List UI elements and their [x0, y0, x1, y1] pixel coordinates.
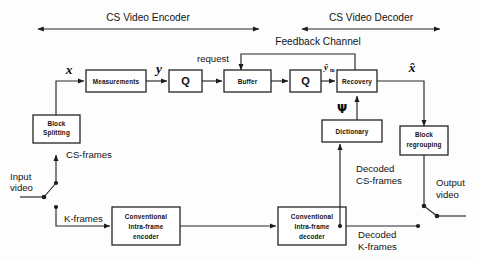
input-video-switch: Input video: [10, 171, 58, 209]
output-video-label-2: video: [436, 189, 459, 200]
signal-y-hat-subscript: m: [330, 67, 335, 73]
y-path: y: [146, 61, 167, 81]
decoded-k-label-1: Decoded: [358, 229, 396, 240]
block-recovery: Recovery: [337, 70, 377, 92]
diagram-canvas: CS Video Encoder CS Video Decoder Feedba…: [0, 0, 478, 260]
x-wire: [56, 81, 84, 115]
psi-label: Ψ: [337, 102, 347, 116]
x-hat-wire: [377, 81, 424, 126]
feedback-channel: Feedback Channel request: [197, 36, 361, 70]
block-intra-frame-encoder: Conventional Intra-frame encoder: [112, 207, 180, 245]
measurements-label: Measurements: [93, 78, 140, 85]
cs-frames-branch: CS-frames: [54, 149, 112, 185]
intra-decoder-label-3: decoder: [299, 233, 325, 240]
block-measurements: Measurements: [86, 70, 146, 92]
decoded-k-label-2: K-frames: [358, 241, 397, 252]
block-dictionary: Dictionary: [322, 120, 382, 142]
decoded-cs-label-1: Decoded: [356, 163, 394, 174]
decoded-k-frames-path: Decoded K-frames: [346, 224, 420, 252]
request-label: request: [197, 53, 229, 64]
cs-frames-label: CS-frames: [66, 149, 112, 160]
feedback-channel-label: Feedback Channel: [275, 36, 361, 47]
block-regrouping: Block regrouping: [400, 126, 448, 155]
block-quantizer-encode: Q: [169, 70, 202, 92]
decoded-cs-label-2: CS-frames: [356, 175, 402, 186]
x-input-path: x: [56, 62, 84, 115]
encoder-span-label: CS Video Encoder: [106, 12, 190, 23]
recovery-label: Recovery: [342, 78, 372, 86]
block-splitting: Block Splitting: [33, 115, 80, 143]
intra-encoder-label-3: encoder: [133, 233, 159, 240]
output-video-switch: Output video: [424, 177, 466, 218]
block-regrouping-label-1: Block: [415, 131, 433, 138]
output-switch-lever: [424, 206, 437, 216]
intra-encoder-label-1: Conventional: [125, 213, 167, 220]
decoded-cs-frames-path: Decoded CS-frames: [356, 155, 426, 208]
quantizer-encode-label: Q: [181, 75, 190, 87]
decoder-span: CS Video Decoder: [302, 12, 440, 29]
output-switch-terminal-k: [416, 224, 420, 228]
input-switch-lever: [44, 183, 56, 197]
input-video-label-2: video: [10, 182, 33, 193]
block-intra-frame-decoder: Conventional Intra-frame decoder: [278, 207, 346, 245]
feedback-wire: [241, 54, 355, 70]
intra-encoder-label-2: Intra-frame: [128, 223, 163, 230]
block-splitting-label-2: Splitting: [43, 129, 70, 137]
intra-decoder-label-1: Conventional: [291, 213, 333, 220]
signal-x-label: x: [65, 62, 73, 77]
y-hat-path: ŷ m: [321, 62, 335, 81]
k-frames-branch: K-frames: [56, 207, 110, 226]
block-splitting-label-1: Block: [47, 120, 65, 127]
block-regrouping-label-2: regrouping: [406, 141, 441, 149]
quantizer-decode-label: Q: [301, 75, 310, 87]
buffer-label: Buffer: [238, 78, 258, 85]
block-quantizer-decode: Q: [290, 70, 321, 92]
x-hat-path: x̂: [377, 60, 424, 126]
block-buffer: Buffer: [224, 70, 271, 92]
decoder-span-label: CS Video Decoder: [329, 12, 414, 23]
cs-video-codec-diagram: CS Video Encoder CS Video Decoder Feedba…: [0, 0, 478, 260]
signal-y-hat-label: ŷ: [323, 62, 329, 72]
k-frames-label: K-frames: [64, 213, 103, 224]
signal-x-hat-label: x̂: [408, 60, 416, 75]
output-video-label-1: Output: [436, 177, 465, 188]
dictionary-tap-node: [338, 224, 342, 228]
intra-decoder-label-2: Intra-frame: [294, 223, 329, 230]
input-video-label-1: Input: [10, 171, 32, 182]
dictionary-label: Dictionary: [336, 128, 369, 136]
psi-path: Ψ: [337, 96, 357, 120]
signal-y-label: y: [154, 61, 163, 76]
encoder-span: CS Video Encoder: [38, 12, 259, 29]
